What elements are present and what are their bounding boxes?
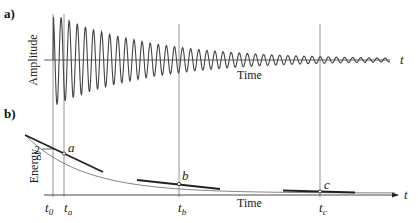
point-c-marker bbox=[318, 190, 321, 193]
amplitude-axis-label: Amplitude bbox=[26, 34, 40, 85]
ta-label: ta bbox=[64, 200, 73, 217]
panel-a-time-label: Time bbox=[237, 68, 262, 82]
tc-sub: c bbox=[323, 207, 327, 217]
t0-sub: 0 bbox=[49, 207, 54, 217]
point-b-label: b bbox=[182, 168, 189, 183]
energy-tick-2: 2 bbox=[34, 143, 40, 157]
tb-label: tb bbox=[178, 200, 187, 217]
tc-label: tc bbox=[319, 200, 327, 217]
point-a-marker bbox=[62, 152, 65, 155]
panel-b-label: b) bbox=[4, 106, 16, 121]
damped-oscillation-figure: a) Amplitude Time t b) Energy 2 a b c Ti… bbox=[0, 0, 418, 223]
panel-b: b) Energy 2 a b c Time t t0 ta tb tc bbox=[4, 106, 408, 217]
point-c-label: c bbox=[324, 177, 330, 192]
ta-sub: a bbox=[68, 207, 73, 217]
panel-b-time-label: Time bbox=[237, 196, 262, 210]
point-a-label: a bbox=[68, 140, 75, 155]
panel-a-t-label: t bbox=[400, 52, 404, 67]
damped-oscillation-curve bbox=[53, 17, 390, 105]
panel-b-t-label: t bbox=[404, 187, 408, 202]
tb-sub: b bbox=[182, 207, 187, 217]
energy-decay-curve bbox=[25, 135, 395, 193]
panel-a-label: a) bbox=[4, 6, 15, 21]
point-b-marker bbox=[177, 182, 180, 185]
t0-label: t0 bbox=[45, 200, 54, 217]
